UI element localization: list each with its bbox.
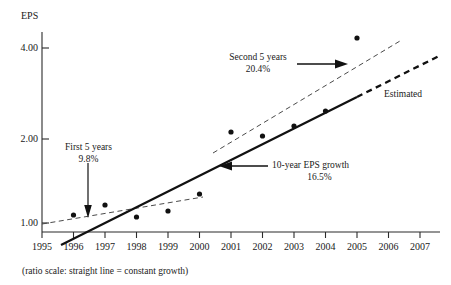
- data-point-1998: [134, 214, 139, 219]
- data-point-1999: [165, 208, 170, 213]
- trend-line-first-five-years: [42, 197, 203, 224]
- eps-growth-chart: EPS 4.00 2.00 1.00 1995 1996 1997 1998 1…: [0, 0, 451, 285]
- chart-caption: (ratio scale: straight line = constant g…: [22, 267, 188, 277]
- annotation-first-five-years-line1: First 5 years: [46, 143, 131, 153]
- x-tick-label-2007: 2007: [400, 242, 440, 252]
- data-point-1996: [71, 212, 76, 217]
- annotation-second-five-years-line1: Second 5 years: [218, 53, 298, 63]
- data-point-2000: [197, 191, 202, 196]
- trend-line-ten-year-growth: [61, 97, 357, 245]
- y-axis-ticks: [42, 48, 49, 223]
- data-point-2004: [323, 108, 328, 113]
- y-tick-label-4: 4.00: [4, 43, 38, 53]
- annotation-second-five-years-line2: 20.4%: [218, 65, 298, 75]
- x-axis-ticks: [42, 232, 420, 238]
- annotation-ten-year-growth-line1: 10-year EPS growth: [272, 161, 349, 171]
- data-point-2003: [291, 123, 296, 128]
- data-points: [71, 35, 360, 219]
- data-point-1997: [102, 202, 107, 207]
- data-point-2001: [228, 129, 233, 134]
- annotation-arrow-second-five-years: [297, 60, 348, 69]
- data-point-2005: [354, 35, 359, 40]
- annotation-ten-year-growth-line2: 16.5%: [272, 173, 367, 183]
- annotation-arrow-first-five-years: [84, 163, 92, 218]
- y-tick-label-2: 2.00: [4, 134, 38, 144]
- y-axis-title: EPS: [21, 11, 38, 21]
- estimated-label: Estimated: [384, 90, 422, 100]
- data-point-2002: [260, 133, 265, 138]
- y-tick-label-1: 1.00: [4, 218, 38, 228]
- annotation-first-five-years-line2: 9.8%: [46, 155, 131, 165]
